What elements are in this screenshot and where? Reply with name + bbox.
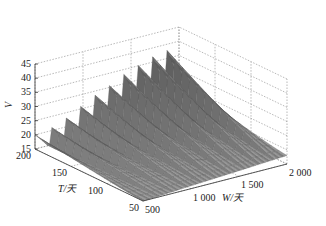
w-tick-label: 1 500 [241, 179, 264, 190]
w-tick-label: 2 000 [289, 167, 312, 178]
z-tick-label: 45 [21, 58, 31, 69]
z-tick-label: 25 [21, 115, 31, 126]
w-tick-label: 1 000 [193, 192, 216, 203]
grid-line [179, 27, 287, 79]
surface-chart: 15202530354045501001502005001 0001 5002 … [0, 0, 326, 226]
y-axis-label: T/天 [58, 183, 77, 194]
z-axis-label: V [3, 100, 14, 108]
t-tick-label: 150 [52, 167, 67, 178]
w-tick-label: 500 [145, 204, 160, 215]
grid-line [35, 27, 179, 64]
z-tick-label: 35 [21, 86, 31, 97]
z-tick-label: 30 [21, 101, 31, 112]
z-tick-label: 20 [21, 129, 31, 140]
t-tick-label: 50 [129, 202, 139, 213]
z-tick-label: 40 [21, 72, 31, 83]
t-tick-label: 100 [88, 185, 103, 196]
x-axis-label: W/天 [222, 192, 244, 203]
t-tick-label: 200 [16, 150, 31, 161]
